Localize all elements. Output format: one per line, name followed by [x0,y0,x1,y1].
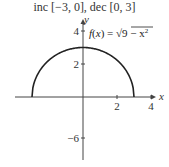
function-label-exponent: 2 [145,27,149,35]
y-tick-label: 2 [74,58,80,70]
y-tick-label: 4 [74,25,80,37]
x-tick-label: 4 [148,100,154,112]
x-axis-arrow [151,95,156,100]
function-label-eq: ) = √ [101,27,123,40]
x-axis-label: x [158,90,164,102]
function-label: f(x) = √9 − x2 [89,27,149,40]
chart-plot: 2442−6xyf(x) = √9 − x2 [0,0,169,167]
y-tick-label: −6 [67,132,79,144]
function-label-radicand: 9 − x [122,27,145,39]
y-axis-label: y [83,13,89,25]
x-tick-label: 2 [114,100,120,112]
